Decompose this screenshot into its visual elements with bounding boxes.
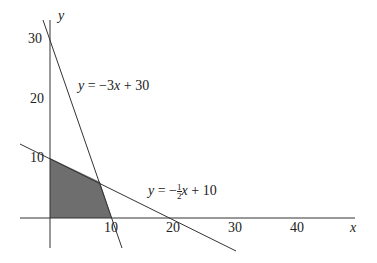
x-tick-20: 20 <box>166 220 180 236</box>
x-tick-10: 10 <box>104 220 118 236</box>
x-tick-30: 30 <box>228 220 242 236</box>
equation-label-1: y = −3x + 30 <box>78 78 149 94</box>
plot-area <box>0 0 377 263</box>
y-tick-30: 30 <box>28 31 42 47</box>
y-axis-label: y <box>58 8 64 24</box>
x-axis-label: x <box>350 220 356 236</box>
y-tick-20: 20 <box>30 91 44 107</box>
feasible-region <box>50 158 112 218</box>
y-tick-10: 10 <box>30 150 44 166</box>
equation-label-2: y = −12x + 10 <box>148 183 217 200</box>
x-tick-40: 40 <box>290 220 304 236</box>
